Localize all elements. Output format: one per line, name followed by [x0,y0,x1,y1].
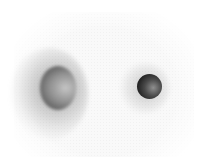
image-scene [0,0,201,163]
small-sphere [137,74,162,99]
large-sphere [40,66,76,110]
